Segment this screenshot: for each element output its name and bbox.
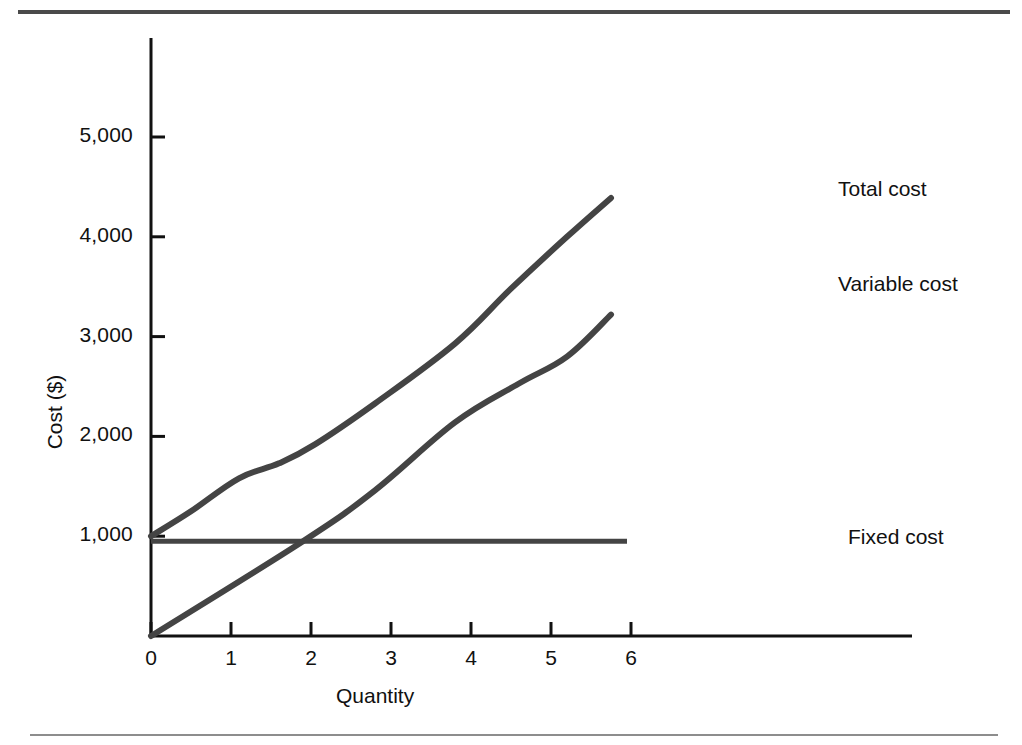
x-axis-title: Quantity	[0, 684, 1022, 708]
x-tick-label: 1	[216, 646, 246, 670]
y-tick-label: 5,000	[0, 123, 133, 147]
x-tick-label: 4	[456, 646, 486, 670]
variable-cost-curve	[151, 315, 611, 636]
chart-plot-area	[0, 0, 1022, 745]
x-tick-label: 3	[376, 646, 406, 670]
series-label-fixed-cost: Fixed cost	[848, 525, 944, 549]
x-tick-label: 5	[536, 646, 566, 670]
y-axis-title: Cost ($)	[43, 352, 67, 472]
series-label-variable-cost: Variable cost	[838, 272, 958, 296]
series-label-total-cost: Total cost	[838, 177, 927, 201]
x-tick-label: 2	[296, 646, 326, 670]
x-axis-ticks	[151, 622, 631, 636]
cost-curves-figure: 1,0002,0003,0004,0005,000 0123456 Cost (…	[0, 0, 1022, 745]
x-tick-label: 6	[616, 646, 646, 670]
y-tick-label: 3,000	[0, 323, 133, 347]
y-tick-label: 4,000	[0, 223, 133, 247]
y-tick-label: 1,000	[0, 522, 133, 546]
y-axis-ticks	[151, 137, 165, 536]
x-tick-label: 0	[136, 646, 166, 670]
